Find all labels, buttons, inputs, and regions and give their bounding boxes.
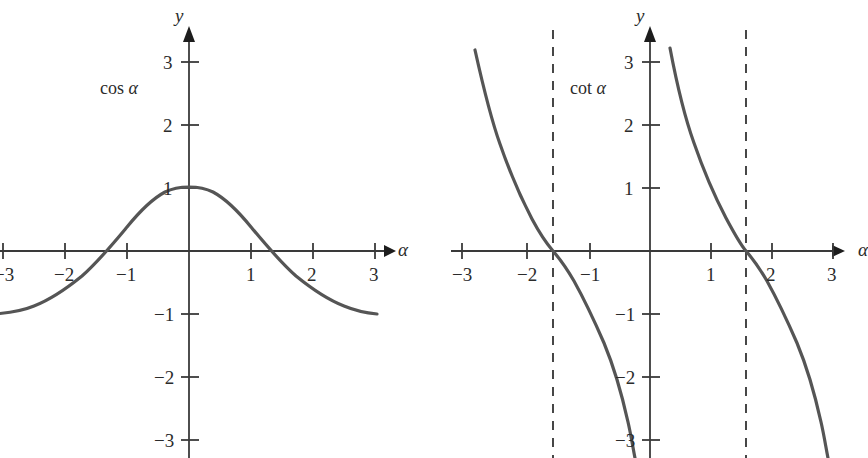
cotangent-curve-right-branch — [670, 48, 828, 458]
cotangent-curve-left-branch — [475, 50, 635, 458]
y-tick-label: −1 — [615, 305, 635, 324]
x-tick-label: −2 — [517, 265, 537, 284]
x-tick-label: 3 — [369, 265, 379, 284]
cosine-plot-svg — [0, 0, 434, 458]
x-axis-label: α — [858, 240, 868, 259]
y-axis-arrowhead — [644, 26, 656, 42]
y-tick-label: 3 — [163, 53, 173, 72]
y-tick-label: −3 — [615, 431, 635, 450]
y-tick-label: −3 — [154, 431, 174, 450]
y-tick-label: 2 — [624, 116, 634, 135]
cotangent-graph-panel: cot α y α −3 −2 −1 1 2 3 3 2 1 −1 −2 −3 — [434, 0, 868, 458]
y-tick-label: 1 — [624, 179, 634, 198]
cotangent-curve-label: cot α — [570, 79, 606, 97]
y-tick-label: 1 — [163, 179, 173, 198]
x-axis-label: α — [398, 240, 408, 259]
y-tick-label: −1 — [154, 305, 174, 324]
x-tick-label: −3 — [452, 265, 472, 284]
x-axis-arrowhead — [384, 245, 396, 257]
cotangent-plot-svg — [434, 0, 868, 458]
cosine-curve-label: cos α — [100, 79, 138, 97]
x-tick-label: 2 — [766, 265, 776, 284]
x-tick-label: −1 — [580, 265, 600, 284]
x-axis-arrowhead — [832, 245, 845, 257]
y-tick-label: 2 — [163, 116, 173, 135]
cosine-axes — [0, 26, 396, 458]
x-tick-label: 3 — [827, 265, 837, 284]
trig-graphs-figure: cos α y α −3 −2 −1 1 2 3 3 2 1 −1 −2 −3 — [0, 0, 868, 458]
cotangent-axes — [451, 26, 845, 458]
y-tick-label: −2 — [154, 368, 174, 387]
y-tick-label: 3 — [624, 53, 634, 72]
y-axis-arrowhead — [183, 26, 195, 42]
cosine-graph-panel: cos α y α −3 −2 −1 1 2 3 3 2 1 −1 −2 −3 — [0, 0, 434, 458]
x-tick-label: −2 — [54, 265, 74, 284]
x-tick-label: −3 — [0, 265, 14, 284]
y-axis-label: y — [636, 6, 644, 25]
y-axis-label: y — [175, 6, 183, 25]
x-tick-label: 2 — [307, 265, 317, 284]
y-tick-label: −2 — [615, 368, 635, 387]
x-tick-label: 1 — [706, 265, 716, 284]
x-tick-label: 1 — [246, 265, 256, 284]
x-tick-label: −1 — [116, 265, 136, 284]
